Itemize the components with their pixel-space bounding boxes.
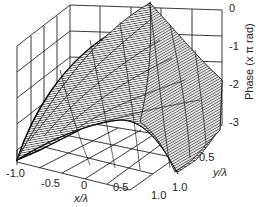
z-tick-0: 0 bbox=[229, 3, 235, 14]
x-axis-label: x/λ bbox=[74, 193, 88, 204]
x-tick-4: 1.0 bbox=[151, 190, 166, 201]
y-tick-0: 0.5 bbox=[199, 152, 214, 163]
y-tick-1: 1.0 bbox=[172, 182, 187, 193]
y-axis-label: y/λ bbox=[213, 167, 227, 178]
z-tick-3: -3 bbox=[229, 117, 239, 128]
z-tick-2: -2 bbox=[229, 79, 239, 90]
x-tick-3: 0.5 bbox=[113, 182, 128, 193]
x-tick-0: -1.0 bbox=[6, 168, 25, 179]
z-axis-label: Phase (x π rad) bbox=[243, 23, 255, 100]
z-tick-1: -1 bbox=[229, 41, 239, 52]
surface-right bbox=[140, 3, 222, 172]
x-tick-2: 0 bbox=[81, 180, 87, 191]
x-tick-1: -0.5 bbox=[41, 178, 60, 189]
